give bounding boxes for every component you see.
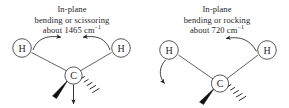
molecule-diagram-rocking: H H C	[145, 34, 289, 108]
caption-line-1: In-plane	[145, 4, 289, 15]
caption-scissoring: In-plane bending or scissoring about 146…	[0, 4, 144, 36]
atom-label-hydrogen-right: H	[263, 45, 270, 56]
atom-label-hydrogen-left: H	[18, 43, 25, 54]
bond-c-h-right	[80, 53, 112, 72]
atom-label-carbon: C	[217, 78, 224, 89]
motion-arrow-hydrogen-right	[83, 37, 110, 50]
panel-scissoring: In-plane bending or scissoring about 146…	[0, 0, 144, 108]
bond-hashed-wedge	[228, 85, 246, 101]
motion-arrow-hydrogen-left	[160, 60, 165, 84]
molecule-diagram-scissoring: H H C	[0, 34, 144, 108]
bond-bold-wedge	[53, 80, 69, 99]
caption-rocking: In-plane bending or rocking about 720 cm…	[145, 4, 289, 36]
bond-c-h-left	[179, 55, 214, 79]
atom-label-carbon: C	[70, 70, 77, 81]
bond-c-h-right	[227, 55, 259, 79]
bond-c-h-left	[32, 53, 68, 72]
vibrational-modes-figure: In-plane bending or scissoring about 146…	[0, 0, 289, 108]
atom-label-hydrogen-right: H	[117, 43, 124, 54]
bond-hashed-wedge	[82, 77, 100, 93]
caption-line-1: In-plane	[0, 4, 144, 15]
caption-line-2: bending or rocking	[145, 15, 289, 26]
motion-arrow-hydrogen-right	[226, 38, 257, 52]
panel-rocking: In-plane bending or rocking about 720 cm…	[145, 0, 289, 108]
caption-line-2: bending or scissoring	[0, 15, 144, 26]
caption-superscript: −1	[95, 24, 102, 30]
atom-label-hydrogen-left: H	[165, 45, 172, 56]
motion-arrow-hydrogen-left	[33, 37, 61, 50]
caption-superscript: −1	[237, 24, 244, 30]
bond-bold-wedge	[200, 88, 215, 105]
